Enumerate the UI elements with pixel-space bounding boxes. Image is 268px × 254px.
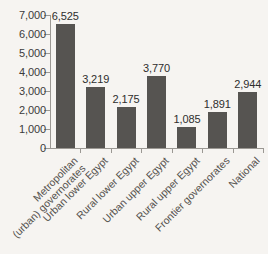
y-axis-tick-label: 6,000 (0, 29, 46, 40)
y-axis-tick-label: 3,000 (0, 86, 46, 97)
y-axis-tick-label: 7,000 (0, 10, 46, 21)
x-axis-tick (141, 148, 142, 153)
x-axis-tick (202, 148, 203, 153)
bar-value-label: 3,770 (143, 63, 170, 74)
category-label-line: National (227, 154, 263, 190)
bar (117, 107, 136, 148)
x-axis-line (50, 148, 263, 149)
bar-value-label: 6,525 (52, 11, 79, 22)
bar (56, 24, 75, 148)
y-axis-tick-label: 2,000 (0, 105, 46, 116)
bar-value-label: 2,175 (113, 94, 140, 105)
bar-chart: 01,0002,0003,0004,0005,0006,0007,000 6,5… (0, 0, 268, 254)
x-axis-tick (172, 148, 173, 153)
x-axis-tick (233, 148, 234, 153)
bar-value-label: 1,891 (204, 99, 231, 110)
y-axis-tick-label: 0 (0, 143, 46, 154)
bar-value-label: 3,219 (82, 74, 109, 85)
x-axis-tick (263, 148, 264, 153)
bar (208, 112, 227, 148)
bar (238, 92, 257, 148)
category-label-line: (urban) governorates (0, 163, 87, 254)
bar-value-label: 1,085 (173, 114, 200, 125)
category-label: Metropolitan(urban) governorates (0, 155, 87, 254)
bar-value-label: 2,944 (234, 79, 261, 90)
bar (86, 87, 105, 148)
x-axis-tick (80, 148, 81, 153)
bar (177, 127, 196, 148)
y-axis-tick-label: 1,000 (0, 124, 46, 135)
x-axis-tick (111, 148, 112, 153)
y-axis-tick-label: 5,000 (0, 48, 46, 59)
y-axis-tick-label: 4,000 (0, 67, 46, 78)
bar (147, 76, 166, 148)
